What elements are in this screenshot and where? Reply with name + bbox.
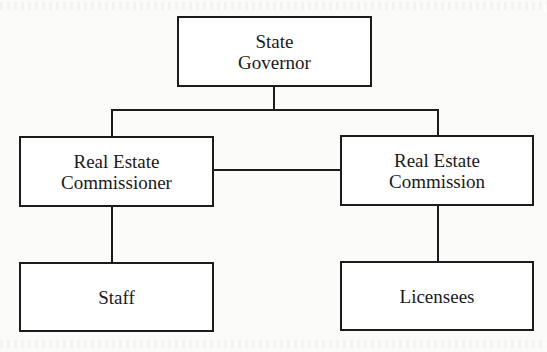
connector-top-horizontal (111, 109, 439, 111)
scan-bleed-through-top (0, 2, 547, 10)
node-label-line2: Governor (238, 52, 311, 73)
node-label-line2: Commission (389, 171, 485, 192)
connector-lateral-commissioner-commission (212, 169, 341, 171)
node-label-line2: Commissioner (61, 172, 172, 193)
connector-commission-licensees (437, 204, 439, 262)
node-real-estate-commissioner: Real Estate Commissioner (19, 136, 214, 207)
node-label-line1: Licensees (400, 286, 475, 307)
scan-bleed-through-bottom (0, 340, 547, 348)
org-chart-canvas: State Governor Real Estate Commissioner … (0, 0, 547, 352)
connector-right-drop (437, 109, 439, 136)
connector-commissioner-staff (111, 205, 113, 263)
connector-left-drop (111, 109, 113, 137)
node-real-estate-commission: Real Estate Commission (340, 135, 534, 206)
connector-governor-down (273, 85, 275, 111)
node-label-line1: Staff (98, 287, 135, 308)
node-label-line1: Real Estate (394, 150, 480, 171)
node-state-governor: State Governor (177, 16, 372, 87)
node-staff: Staff (19, 262, 214, 332)
node-label-line1: State (256, 31, 294, 52)
node-licensees: Licensees (340, 261, 534, 331)
node-label-line1: Real Estate (74, 151, 160, 172)
